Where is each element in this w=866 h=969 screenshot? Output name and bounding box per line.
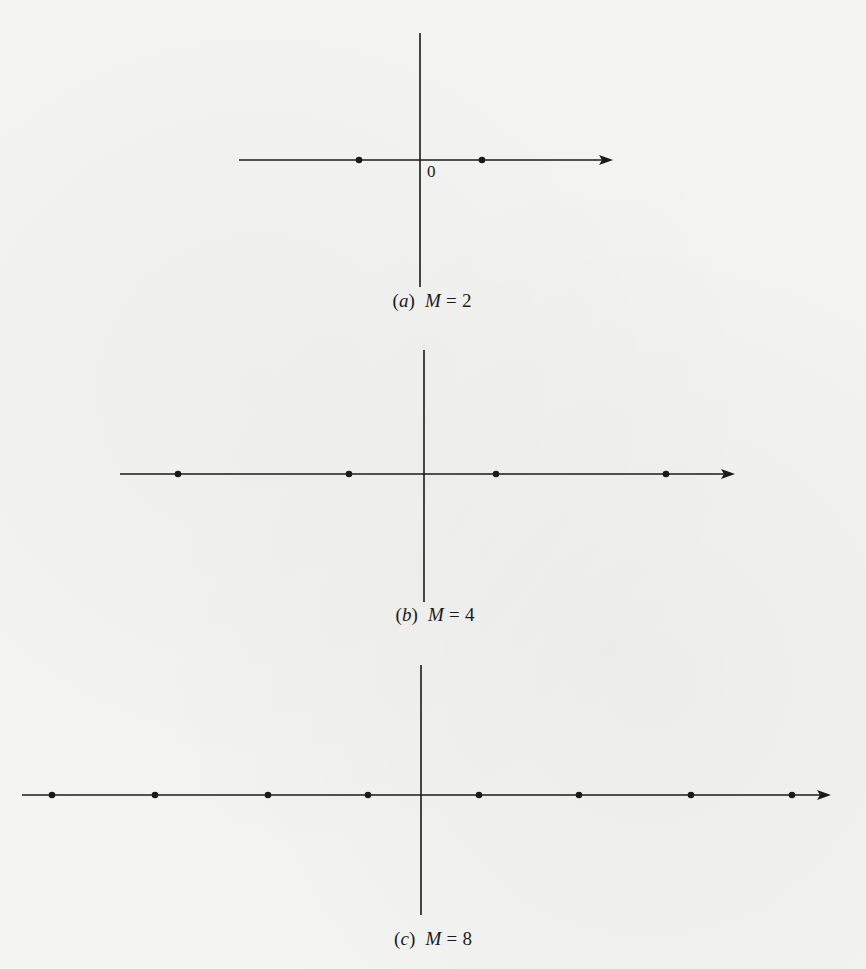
caption-panel-b: (b) M = 4 [395,604,474,626]
signal-point [365,792,372,799]
signal-point [476,792,483,799]
panel-c [22,665,831,915]
caption-letter: c [400,928,409,949]
caption-variable: M [426,928,442,949]
signal-point [152,792,159,799]
signal-point [479,157,486,164]
signal-point [688,792,695,799]
signal-point [576,792,583,799]
signal-point [789,792,796,799]
origin-label: 0 [427,162,436,182]
caption-equals: = [447,928,458,949]
caption-equals: = [449,604,460,625]
caption-value: 4 [465,604,475,625]
signal-point [175,471,182,478]
caption-variable: M [425,290,441,311]
caption-panel-a: (a) M = 2 [392,290,471,312]
caption-equals: = [446,290,457,311]
caption-letter: a [399,290,409,311]
signal-point [265,792,272,799]
signal-point [49,792,56,799]
signal-constellation-figure [0,0,866,969]
caption-value: 8 [462,928,472,949]
caption-letter: b [402,604,412,625]
caption-value: 2 [462,290,472,311]
caption-variable: M [428,604,444,625]
signal-point [493,471,500,478]
signal-point [346,471,353,478]
signal-point [663,471,670,478]
caption-panel-c: (c) M = 8 [394,928,472,950]
panel-a [239,33,613,287]
signal-point [356,157,363,164]
panel-b [120,350,735,602]
